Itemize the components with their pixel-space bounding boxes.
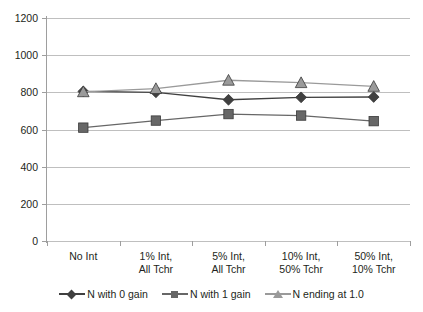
legend-item-label: N with 0 gain [87,288,148,300]
series-3 [78,74,380,96]
legend-item-label: N ending at 1.0 [293,288,364,300]
line-chart: 020040060080010001200 No Int1% Int,All T… [0,0,423,312]
legend-key-marker [67,290,77,300]
data-point-marker [151,116,160,125]
legend-marker-square-icon [162,288,188,300]
data-point-marker [79,123,88,132]
legend-marker-diamond-icon [59,288,85,300]
legend-marker-triangle-icon [265,288,291,300]
data-point-marker [368,92,379,103]
legend-item-label: N with 1 gain [190,288,251,300]
chart-legend: N with 0 gainN with 1 gainN ending at 1.… [0,288,423,300]
data-point-marker [223,94,234,105]
legend-item: N ending at 1.0 [265,288,364,300]
data-point-marker [224,109,233,118]
legend-item: N with 0 gain [59,288,148,300]
series-2 [79,109,379,132]
legend-key-marker [273,290,283,298]
legend-item: N with 1 gain [162,288,251,300]
data-point-marker [296,111,305,120]
data-point-marker [369,116,378,125]
legend-key-marker [171,291,178,298]
data-point-marker [296,92,307,103]
series-layer [0,0,423,312]
series-1 [78,86,379,105]
